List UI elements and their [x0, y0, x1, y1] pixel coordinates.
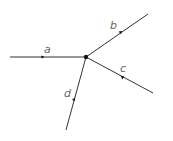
- branch-label-d: d: [64, 87, 72, 100]
- branch-label-c: c: [120, 62, 126, 75]
- diagram-canvas: a b c d: [0, 0, 173, 141]
- branch-b-wire: [86, 14, 148, 57]
- branch-label-a: a: [44, 43, 51, 56]
- current-junction-diagram: a b c d: [0, 0, 173, 141]
- junction-node: [84, 55, 88, 59]
- branch-label-b: b: [110, 19, 117, 32]
